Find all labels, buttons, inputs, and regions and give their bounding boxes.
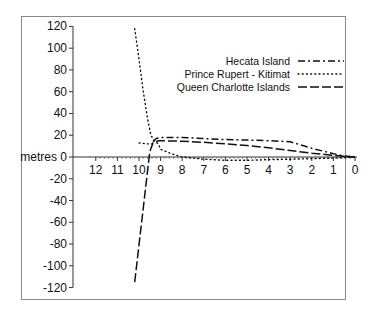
legend: Hecata IslandPrince Rupert - KitimatQuee… bbox=[177, 55, 344, 93]
x-tick-label: 3 bbox=[287, 163, 294, 177]
x-tick-label: 5 bbox=[244, 163, 251, 177]
y-tick-label: metres 0 bbox=[20, 150, 67, 164]
series-branch bbox=[139, 143, 154, 144]
y-tick-label: -100 bbox=[43, 259, 67, 273]
x-tick-label: 12 bbox=[89, 163, 103, 177]
y-tick-label: -40 bbox=[50, 194, 68, 208]
y-tick-label: 100 bbox=[47, 41, 67, 55]
x-tick-label: 7 bbox=[200, 163, 207, 177]
x-tick-label: 1 bbox=[330, 163, 337, 177]
axes: 12010080604020metres 0-20-40-60-80-100-1… bbox=[20, 19, 358, 294]
y-tick-label: 80 bbox=[54, 63, 68, 77]
x-tick-label: 9 bbox=[157, 163, 164, 177]
y-tick-label: 20 bbox=[54, 128, 68, 142]
y-tick-label: -80 bbox=[50, 237, 68, 251]
x-tick-label: 8 bbox=[179, 163, 186, 177]
x-tick-label: 10 bbox=[132, 163, 146, 177]
legend-label: Hecata Island bbox=[226, 55, 290, 67]
y-tick-label: 60 bbox=[54, 85, 68, 99]
y-tick-label: 40 bbox=[54, 106, 68, 120]
x-tick-label: 0 bbox=[352, 163, 359, 177]
y-tick-label: -60 bbox=[50, 215, 68, 229]
legend-label: Queen Charlotte Islands bbox=[177, 81, 290, 93]
x-tick-label: 11 bbox=[111, 163, 124, 177]
series-queen-charlotte-islands bbox=[135, 141, 355, 282]
y-tick-label: -120 bbox=[43, 281, 67, 295]
y-tick-label: 120 bbox=[47, 19, 67, 33]
line-chart: 12010080604020metres 0-20-40-60-80-100-1… bbox=[0, 0, 384, 317]
x-tick-label: 2 bbox=[308, 163, 315, 177]
x-tick-label: 4 bbox=[265, 163, 272, 177]
x-tick-label: 6 bbox=[222, 163, 229, 177]
legend-label: Prince Rupert - Kitimat bbox=[184, 68, 290, 80]
y-tick-label: -20 bbox=[50, 172, 68, 186]
